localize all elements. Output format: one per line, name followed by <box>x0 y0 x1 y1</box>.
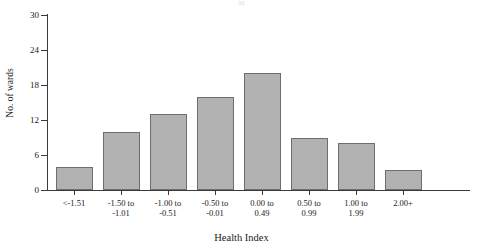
x-tick-mark <box>74 190 75 195</box>
y-tick-label: 18 <box>5 81 39 90</box>
plot-area <box>47 15 470 190</box>
x-tick-mark <box>215 190 216 195</box>
chart-figure: 30 No. of wards 0612182430 <-1.51-1.50 t… <box>0 0 483 252</box>
x-tick-mark <box>356 190 357 195</box>
x-tick-mark <box>262 190 263 195</box>
x-tick-mark <box>309 190 310 195</box>
x-tick-label: 2.00+ <box>380 198 427 208</box>
bar <box>56 167 93 190</box>
x-axis-line <box>47 190 470 191</box>
x-tick-mark <box>168 190 169 195</box>
y-tick-label-text: 0 <box>9 186 39 195</box>
x-tick-mark <box>121 190 122 195</box>
caption-remnant-text: 30 <box>0 0 483 8</box>
y-tick-mark <box>41 190 47 191</box>
x-tick-label: <-1.51 <box>51 198 98 208</box>
y-tick-label: 6 <box>5 151 39 160</box>
x-tick-label: -1.00 to -0.51 <box>145 198 192 218</box>
x-tick-label: 1.00 to 1.99 <box>333 198 380 218</box>
y-tick-label: 24 <box>5 46 39 55</box>
y-tick-label-text: 18 <box>9 81 39 90</box>
y-tick-label-text: 12 <box>9 116 39 125</box>
x-tick-label: -1.50 to -1.01 <box>98 198 145 218</box>
y-tick-label-text: 6 <box>9 151 39 160</box>
x-tick-label: -0.50 to -0.01 <box>192 198 239 218</box>
x-tick-label: 0.50 to 0.99 <box>286 198 333 218</box>
x-axis-title: Health Index <box>0 232 483 244</box>
bar <box>197 97 234 190</box>
bar <box>385 170 422 190</box>
x-tick-mark <box>403 190 404 195</box>
y-tick-label: 12 <box>5 116 39 125</box>
bar <box>103 132 140 190</box>
y-tick-label-text: 30 <box>9 11 39 20</box>
bar <box>150 114 187 190</box>
bar <box>291 138 328 191</box>
bar <box>244 73 281 190</box>
x-tick-label: 0.00 to 0.49 <box>239 198 286 218</box>
y-tick-label: 0 <box>5 186 39 195</box>
y-tick-label-text: 24 <box>9 46 39 55</box>
y-tick-label: 30 <box>5 11 39 20</box>
bar <box>338 143 375 190</box>
